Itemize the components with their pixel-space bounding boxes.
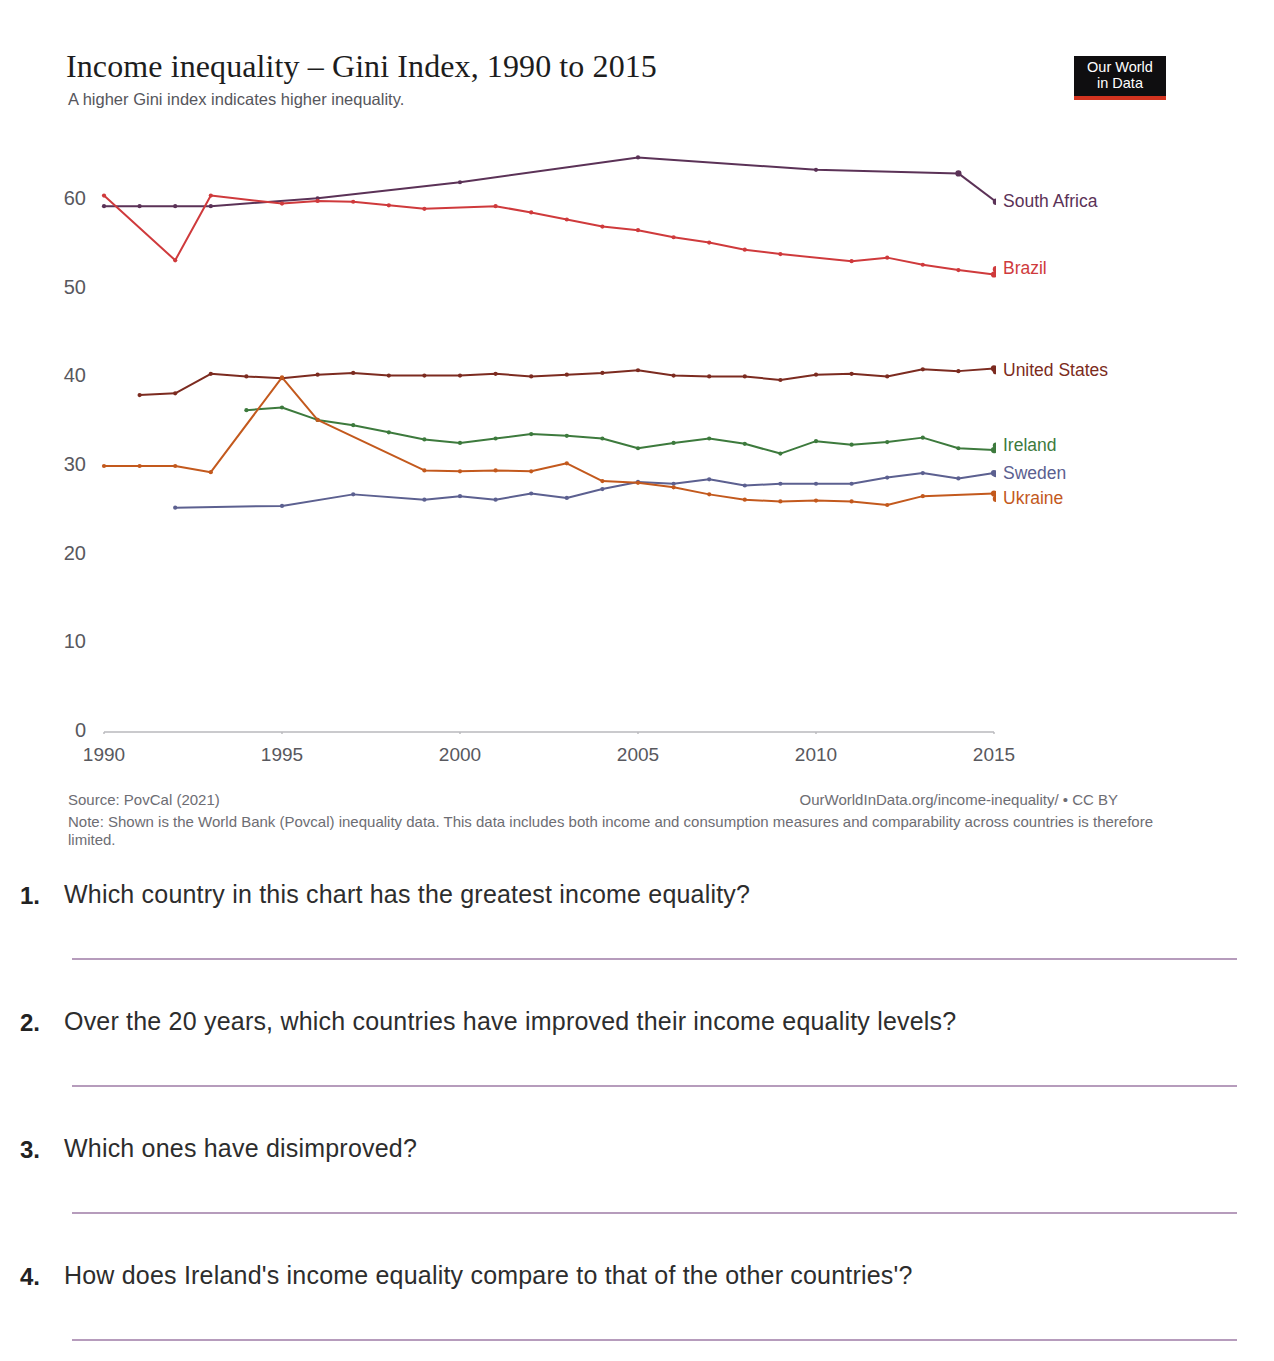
data-point [885, 440, 889, 444]
data-point [422, 498, 426, 502]
data-point [565, 373, 569, 377]
answer-line[interactable] [72, 1085, 1237, 1087]
data-point [707, 436, 711, 440]
data-point [280, 405, 284, 409]
series-label-united-states[interactable]: United States [1003, 360, 1108, 381]
our-world-in-data-logo[interactable]: Our World in Data [1074, 56, 1166, 96]
series-united-states [138, 365, 997, 397]
data-point [814, 482, 818, 486]
data-point [743, 498, 747, 502]
x-tick-label: 2000 [418, 744, 502, 766]
data-point [529, 469, 533, 473]
question-number: 4. [20, 1263, 58, 1291]
data-point [316, 199, 320, 203]
data-point [138, 393, 142, 397]
line-chart-plot [96, 102, 996, 734]
data-point [885, 374, 889, 378]
data-point [921, 471, 925, 475]
data-point [458, 441, 462, 445]
data-point [565, 217, 569, 221]
series-line [104, 377, 994, 505]
y-tick-label: 60 [40, 187, 86, 210]
data-point [600, 436, 604, 440]
chart-card: Income inequality – Gini Index, 1990 to … [0, 22, 1210, 842]
y-tick-label: 20 [40, 542, 86, 565]
series-label-ukraine[interactable]: Ukraine [1003, 488, 1063, 509]
data-point [921, 494, 925, 498]
data-point [494, 372, 498, 376]
series-line [104, 196, 994, 275]
data-point [778, 378, 782, 382]
data-point [743, 374, 747, 378]
data-point [956, 268, 960, 272]
data-point [778, 499, 782, 503]
data-point [814, 373, 818, 377]
data-point [814, 498, 818, 502]
data-point [494, 468, 498, 472]
data-point [600, 487, 604, 491]
data-point [494, 204, 498, 208]
question-number: 3. [20, 1136, 58, 1164]
y-tick-label: 10 [40, 630, 86, 653]
attribution-text[interactable]: OurWorldInData.org/income-inequality/ • … [800, 791, 1118, 808]
y-tick-label: 50 [40, 276, 86, 299]
x-tick-label: 1990 [62, 744, 146, 766]
data-point [173, 204, 177, 208]
data-point [885, 503, 889, 507]
label-end-dot [993, 266, 996, 272]
source-text: Source: PovCal (2021) [68, 791, 220, 808]
data-point [351, 200, 355, 204]
logo-line-2: in Data [1074, 75, 1166, 91]
x-tick-label: 1995 [240, 744, 324, 766]
data-point [885, 256, 889, 260]
x-axis [104, 732, 994, 734]
data-point [422, 437, 426, 441]
question-text: Which country in this chart has the grea… [64, 880, 750, 909]
logo-line-1: Our World [1074, 59, 1166, 75]
series-label-ireland[interactable]: Ireland [1003, 435, 1057, 456]
question-text: Which ones have disimproved? [64, 1134, 417, 1163]
data-point [636, 228, 640, 232]
label-end-dot [993, 496, 996, 502]
data-point [885, 475, 889, 479]
data-point [778, 482, 782, 486]
y-tick-label: 30 [40, 453, 86, 476]
data-point [529, 374, 533, 378]
series-label-south-africa[interactable]: South Africa [1003, 191, 1097, 212]
series-ireland [244, 405, 996, 455]
data-point [778, 252, 782, 256]
series-ukraine [102, 375, 996, 507]
series-label-brazil[interactable]: Brazil [1003, 258, 1047, 279]
data-point [636, 155, 640, 159]
data-point [209, 470, 213, 474]
series-label-sweden[interactable]: Sweden [1003, 463, 1066, 484]
data-point [850, 482, 854, 486]
data-point [351, 423, 355, 427]
data-point [494, 436, 498, 440]
data-point [102, 204, 106, 208]
data-point [565, 434, 569, 438]
data-point [458, 469, 462, 473]
question-text: Over the 20 years, which countries have … [64, 1007, 956, 1036]
data-point [743, 248, 747, 252]
question-item: 1.Which country in this chart has the gr… [0, 866, 1274, 993]
data-point [422, 468, 426, 472]
data-point [351, 492, 355, 496]
answer-line[interactable] [72, 958, 1237, 960]
data-point [351, 371, 355, 375]
data-point [209, 372, 213, 376]
chart-svg [96, 102, 996, 734]
data-point [316, 373, 320, 377]
data-point [956, 476, 960, 480]
data-point [102, 193, 106, 197]
data-point [173, 506, 177, 510]
label-connector [958, 173, 996, 201]
data-point [565, 496, 569, 500]
question-item: 3.Which ones have disimproved? [0, 1120, 1274, 1247]
answer-line[interactable] [72, 1212, 1237, 1214]
questions-list: 1.Which country in this chart has the gr… [0, 866, 1274, 1361]
chart-title: Income inequality – Gini Index, 1990 to … [66, 48, 657, 85]
data-point [280, 504, 284, 508]
data-point [921, 263, 925, 267]
answer-line[interactable] [72, 1339, 1237, 1341]
